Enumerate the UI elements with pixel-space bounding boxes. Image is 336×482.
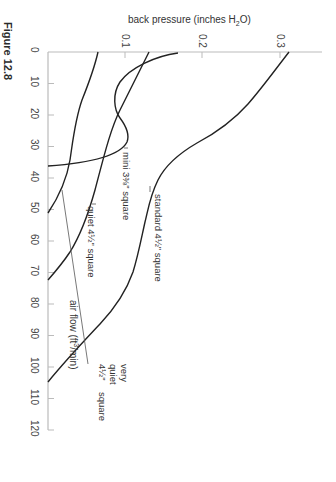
x-tick-label: 20 bbox=[29, 108, 40, 119]
x-tick-label: 0 bbox=[29, 47, 40, 53]
x-tick-label: 70 bbox=[29, 265, 40, 276]
label-mini: mini 3⅜" square bbox=[121, 152, 132, 220]
y-tick-label: 0.1 bbox=[120, 34, 131, 48]
y-tick-label: 0.2 bbox=[197, 34, 208, 48]
x-tick-label: 60 bbox=[29, 234, 40, 245]
x-tick-label: 80 bbox=[29, 297, 40, 308]
curve-standard bbox=[48, 52, 289, 382]
x-tick-label: 50 bbox=[29, 202, 40, 213]
x-tick-label: 120 bbox=[29, 420, 40, 437]
x-tick-label: 30 bbox=[29, 139, 40, 150]
x-tick-label: 10 bbox=[29, 76, 40, 87]
x-axis-title-end: /min) bbox=[68, 347, 79, 369]
label-very-quiet-2: quiet bbox=[108, 364, 119, 385]
y-tick-label: 0.3 bbox=[275, 34, 286, 48]
label-standard: standard 4½" square bbox=[153, 194, 164, 282]
x-axis-title: air flow (ft3/min) bbox=[68, 300, 80, 369]
x-tick-label: 40 bbox=[29, 171, 40, 182]
label-very-quiet-4: square bbox=[97, 392, 108, 421]
curve-very-quiet bbox=[48, 52, 98, 213]
x-tick-label: 90 bbox=[29, 328, 40, 339]
label-quiet: quiet 4½" square bbox=[86, 206, 97, 278]
x-axis-title-text: air flow (ft bbox=[68, 300, 79, 343]
x-tick-label: 110 bbox=[29, 389, 40, 405]
chart-plot bbox=[0, 0, 336, 482]
curve-quiet bbox=[48, 52, 149, 280]
label-very-quiet-3: 4½" bbox=[97, 364, 108, 381]
label-very-quiet-1: very bbox=[119, 364, 130, 382]
curve-mini bbox=[48, 53, 178, 166]
x-tick-label: 100 bbox=[29, 357, 40, 374]
